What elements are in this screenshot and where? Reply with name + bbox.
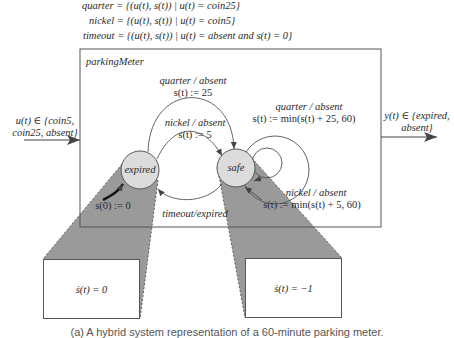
state-safe-label: safe bbox=[216, 162, 256, 173]
output-label-line2: absent} bbox=[380, 122, 454, 134]
input-label-line2: coin25, absent} bbox=[6, 127, 84, 139]
quarter-transition-action: s(t) := 25 bbox=[148, 87, 238, 99]
state-expired-label: expired bbox=[120, 164, 160, 175]
nickel-transition-action: s(t) := 5 bbox=[153, 129, 237, 141]
safe-refinement-equation: ṡ(t) = −1 bbox=[274, 283, 313, 294]
input-label-line1: u(t) ∈ {coin5, bbox=[6, 115, 84, 127]
definition-nickel: nickel = {(u(t), s(t)) | u(t) = coin5} bbox=[89, 15, 235, 27]
definition-quarter: quarter = {(u(t), s(t)) | u(t) = coin25} bbox=[82, 0, 240, 12]
safe-nickel-action: s(t) := min(s(t) + 5, 60) bbox=[248, 199, 376, 211]
output-label-line1: y(t) ∈ {expired, bbox=[380, 110, 454, 122]
safe-nickel-guard: nickel / absent bbox=[262, 187, 370, 199]
timeout-transition-label: timeout/expired bbox=[155, 208, 235, 220]
timeout-transition-arc bbox=[158, 184, 222, 200]
safe-refinement-box: ṡ(t) = −1 bbox=[245, 258, 342, 318]
initial-state-label: s(0) := 0 bbox=[88, 200, 138, 212]
safe-quarter-guard: quarter / absent bbox=[250, 101, 368, 113]
safe-quarter-action: s(t) := min(s(t) + 25, 60) bbox=[240, 113, 368, 125]
figure-caption: (a) A hybrid system representation of a … bbox=[0, 326, 454, 338]
expired-refinement-box: ṡ(t) = 0 bbox=[43, 259, 140, 319]
expired-refinement-equation: ṡ(t) = 0 bbox=[76, 284, 108, 295]
machine-title: parkingMeter bbox=[86, 56, 144, 67]
quarter-transition-guard: quarter / absent bbox=[148, 75, 238, 87]
nickel-transition-guard: nickel / absent bbox=[153, 117, 237, 129]
safe-nickel-selfloop bbox=[252, 148, 282, 178]
definition-timeout: timeout = {(u(t), s(t)) | u(t) = absent … bbox=[83, 30, 292, 42]
